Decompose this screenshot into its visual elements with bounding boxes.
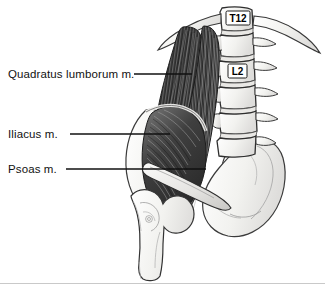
label-quadratus-lumborum: Quadratus lumborum m. xyxy=(8,68,134,80)
bone-tag-l2-text: L2 xyxy=(232,66,244,77)
bone-tag-t12-text: T12 xyxy=(229,13,247,24)
anatomy-figure: T12 L2 Quadratus lumborum m. Iliacus m. … xyxy=(0,0,325,290)
label-iliacus: Iliacus m. xyxy=(8,128,58,140)
bone-tag-t12: T12 xyxy=(226,11,250,25)
bone-tag-l2: L2 xyxy=(228,64,247,78)
femur xyxy=(131,190,194,281)
anatomy-illustration: T12 L2 xyxy=(0,0,325,290)
label-psoas: Psoas m. xyxy=(8,163,57,175)
vertebral-column xyxy=(211,7,278,157)
footer-divider xyxy=(0,283,325,284)
